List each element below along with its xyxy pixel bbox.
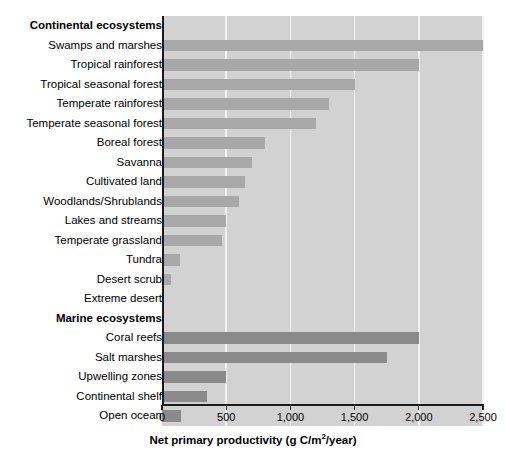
category-label: Temperate seasonal forest: [26, 114, 162, 134]
x-tick-label: 500: [217, 411, 235, 423]
category-label: Temperate rainforest: [57, 94, 162, 114]
chart-bar-row: Temperate seasonal forest: [0, 114, 506, 134]
plot-band: [162, 16, 483, 36]
gridline: [482, 250, 484, 270]
gridline: [290, 172, 292, 192]
gridline: [418, 367, 420, 387]
plot-band: [162, 250, 483, 270]
x-tick: [290, 405, 291, 410]
gridline: [482, 133, 484, 153]
gridline: [225, 270, 227, 290]
x-axis-line: [162, 404, 484, 406]
chart-bar-row: Lakes and streams: [0, 211, 506, 231]
plot-band: [162, 211, 483, 231]
x-tick: [354, 405, 355, 410]
chart-bar-row: Temperate grassland: [0, 231, 506, 251]
gridline: [418, 211, 420, 231]
gridline: [290, 16, 292, 36]
plot-band: [162, 55, 483, 75]
gridline: [482, 289, 484, 309]
gridline: [418, 231, 420, 251]
gridline: [354, 231, 356, 251]
chart-rows: Continental ecosystemsSwamps and marshes…: [0, 16, 506, 426]
gridline: [418, 94, 420, 114]
bar: [162, 98, 329, 110]
gridline: [482, 114, 484, 134]
bar: [162, 79, 355, 91]
plot-band: [162, 172, 483, 192]
gridline: [482, 309, 484, 329]
gridline: [482, 348, 484, 368]
plot-band: [162, 75, 483, 95]
bar: [162, 215, 226, 227]
gridline: [354, 289, 356, 309]
category-label: Salt marshes: [95, 348, 162, 368]
bar: [162, 40, 483, 52]
chart-bar-row: Boreal forest: [0, 133, 506, 153]
bar: [162, 59, 419, 71]
plot-band: [162, 270, 483, 290]
chart-bar-row: Tundra: [0, 250, 506, 270]
gridline: [290, 211, 292, 231]
gridline: [418, 133, 420, 153]
chart-bar-row: Desert scrub: [0, 270, 506, 290]
gridline: [418, 114, 420, 134]
x-tick-label: 0: [159, 411, 165, 423]
gridline: [290, 231, 292, 251]
gridline: [225, 289, 227, 309]
gridline: [290, 133, 292, 153]
category-label: Savanna: [117, 153, 162, 173]
chart-bar-row: Extreme desert: [0, 289, 506, 309]
gridline: [482, 367, 484, 387]
plot-band: [162, 231, 483, 251]
bar: [162, 391, 207, 403]
category-label: Boreal forest: [97, 133, 162, 153]
gridline: [354, 94, 356, 114]
plot-band: [162, 309, 483, 329]
chart-bar-row: Temperate rainforest: [0, 94, 506, 114]
x-tick-label: 1,500: [341, 411, 369, 423]
x-tick-label: 1,000: [277, 411, 305, 423]
gridline: [482, 270, 484, 290]
gridline: [482, 55, 484, 75]
category-label: Tundra: [126, 250, 162, 270]
chart-bar-row: Tropical rainforest: [0, 55, 506, 75]
bar: [162, 371, 226, 383]
gridline: [354, 309, 356, 329]
category-label: Desert scrub: [97, 270, 162, 290]
gridline: [290, 153, 292, 173]
gridline: [290, 367, 292, 387]
gridline: [225, 309, 227, 329]
gridline: [225, 231, 227, 251]
gridline: [354, 367, 356, 387]
x-axis-title: Net primary productivity (g C/m2/year): [0, 432, 506, 446]
gridline: [418, 172, 420, 192]
chart-bar-row: Woodlands/Shrublands: [0, 192, 506, 212]
gridline: [290, 250, 292, 270]
plot-band: [162, 153, 483, 173]
plot-band: [162, 192, 483, 212]
category-label: Woodlands/Shrublands: [43, 192, 162, 212]
gridline: [225, 250, 227, 270]
gridline: [354, 270, 356, 290]
gridline: [290, 270, 292, 290]
gridline: [418, 309, 420, 329]
chart-group-heading-row: Continental ecosystems: [0, 16, 506, 36]
x-tick: [226, 405, 227, 410]
plot-band: [162, 367, 483, 387]
bar: [162, 157, 252, 169]
gridline: [418, 75, 420, 95]
gridline: [482, 94, 484, 114]
gridline: [290, 309, 292, 329]
bar: [162, 137, 265, 149]
x-tick: [482, 405, 483, 410]
gridline: [418, 289, 420, 309]
y-axis-line: [162, 16, 164, 405]
gridline: [418, 16, 420, 36]
x-tick-label: 2,500: [469, 411, 497, 423]
category-label: Coral reefs: [106, 328, 162, 348]
bar: [162, 235, 222, 247]
gridline: [482, 328, 484, 348]
gridline: [482, 231, 484, 251]
gridline: [290, 192, 292, 212]
